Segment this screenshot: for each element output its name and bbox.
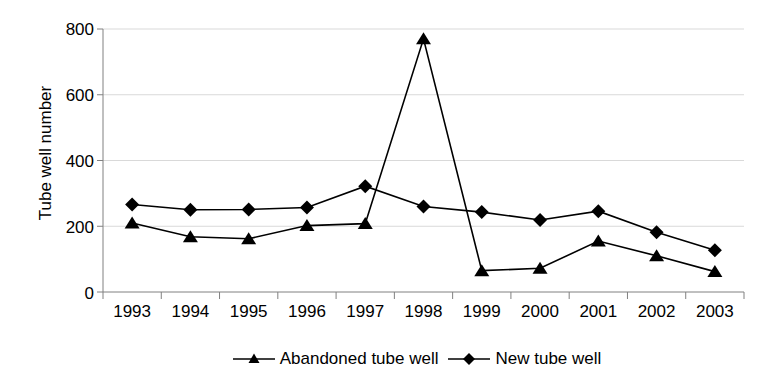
y-axis-ticks (97, 29, 103, 292)
plot-area (0, 0, 784, 386)
data-point-diamond[interactable] (708, 243, 722, 257)
data-point-diamond[interactable] (591, 204, 605, 218)
data-point-triangle[interactable] (125, 216, 140, 228)
line-chart: Tube well number 800 600 400 200 0 19931… (0, 0, 784, 386)
series-line-diamond (132, 186, 715, 250)
legend-item-new[interactable]: New tube well (448, 349, 601, 369)
data-point-diamond[interactable] (417, 200, 431, 214)
data-point-triangle[interactable] (591, 235, 606, 247)
legend-item-abandoned[interactable]: Abandoned tube well (233, 349, 439, 369)
legend-label-abandoned: Abandoned tube well (280, 349, 439, 369)
diamond-icon (448, 351, 490, 367)
data-series-layer (125, 32, 723, 277)
series-line-triangle (132, 39, 715, 272)
legend-label-new: New tube well (495, 349, 601, 369)
data-point-diamond[interactable] (300, 201, 314, 215)
x-tick-label: 2003 (680, 303, 750, 320)
data-point-diamond[interactable] (242, 202, 256, 216)
data-point-diamond[interactable] (475, 205, 489, 219)
data-point-diamond[interactable] (650, 225, 664, 239)
data-point-triangle[interactable] (416, 32, 431, 44)
x-axis-ticks (103, 292, 744, 299)
gridlines (103, 29, 744, 226)
data-point-triangle[interactable] (649, 249, 664, 261)
data-point-diamond[interactable] (183, 203, 197, 217)
triangle-icon (233, 351, 275, 367)
data-point-diamond[interactable] (125, 198, 139, 212)
data-point-triangle[interactable] (707, 265, 722, 277)
chart-legend: Abandoned tube well New tube well (207, 344, 627, 374)
data-point-diamond[interactable] (358, 179, 372, 193)
data-point-diamond[interactable] (533, 213, 547, 227)
